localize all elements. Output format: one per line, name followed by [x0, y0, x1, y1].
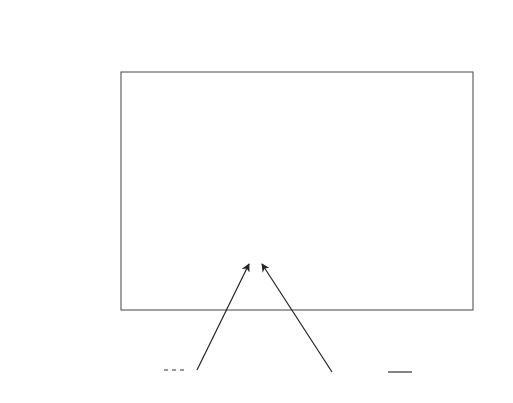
packet-callout-line [262, 264, 332, 372]
plot-frame [121, 72, 473, 310]
timing-diagram [0, 0, 513, 403]
ack-callout-line [197, 264, 249, 370]
